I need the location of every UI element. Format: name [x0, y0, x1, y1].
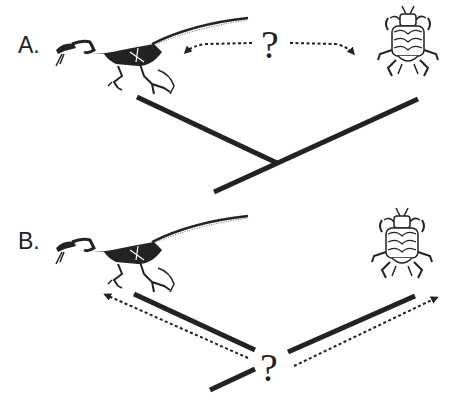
dotted-arrow-right: [294, 298, 436, 366]
figure-canvas: A. ? B. ?: [0, 0, 464, 400]
dotted-arrow-left: [186, 43, 252, 52]
question-mark-b: ?: [260, 348, 278, 388]
panel-label-a: A.: [18, 32, 40, 59]
louse-icon: [378, 6, 438, 76]
panel-label-b: B.: [18, 228, 40, 255]
question-mark-a: ?: [261, 25, 279, 65]
tree-branch-right: [288, 296, 415, 352]
louse-icon: [372, 208, 432, 278]
panel-a-tree: [137, 97, 418, 192]
figure-graphics: [0, 0, 464, 400]
tree-branch-left-lower: [210, 369, 255, 390]
dotted-arrow-left: [106, 295, 248, 358]
tree-branch-left: [137, 97, 277, 163]
raptor-skeleton-icon: [56, 18, 248, 94]
raptor-skeleton-icon: [56, 216, 248, 292]
dotted-arrow-right: [290, 43, 353, 53]
tree-branch-left-upper: [134, 294, 255, 350]
